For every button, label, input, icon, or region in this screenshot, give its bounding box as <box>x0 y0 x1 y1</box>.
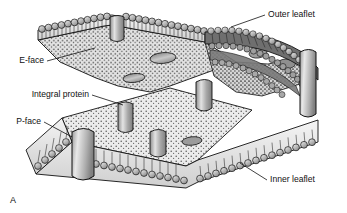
integral-protein-edge-bulge <box>110 16 124 42</box>
integral-protein-particle <box>196 80 212 112</box>
integral-protein-spanning <box>300 50 316 118</box>
integral-protein-particle <box>150 130 166 158</box>
label-integral-protein: Integral protein <box>32 89 90 99</box>
freeze-fracture-membrane-figure: Outer leaflet E-face Integral protein P-… <box>0 0 347 213</box>
membrane-diagram-svg: Outer leaflet E-face Integral protein P-… <box>0 0 347 213</box>
label-inner-leaflet: Inner leaflet <box>270 174 316 184</box>
leader-inner-leaflet <box>240 163 267 180</box>
leader-outer-leaflet <box>231 15 265 27</box>
label-outer-leaflet: Outer leaflet <box>268 9 315 19</box>
label-e-face: E-face <box>19 55 44 65</box>
integral-protein-spanning <box>72 129 94 181</box>
label-p-face: P-face <box>16 116 41 126</box>
panel-label: A <box>10 195 16 205</box>
leader-integral-protein <box>92 95 123 105</box>
integral-protein-particle <box>118 102 133 133</box>
